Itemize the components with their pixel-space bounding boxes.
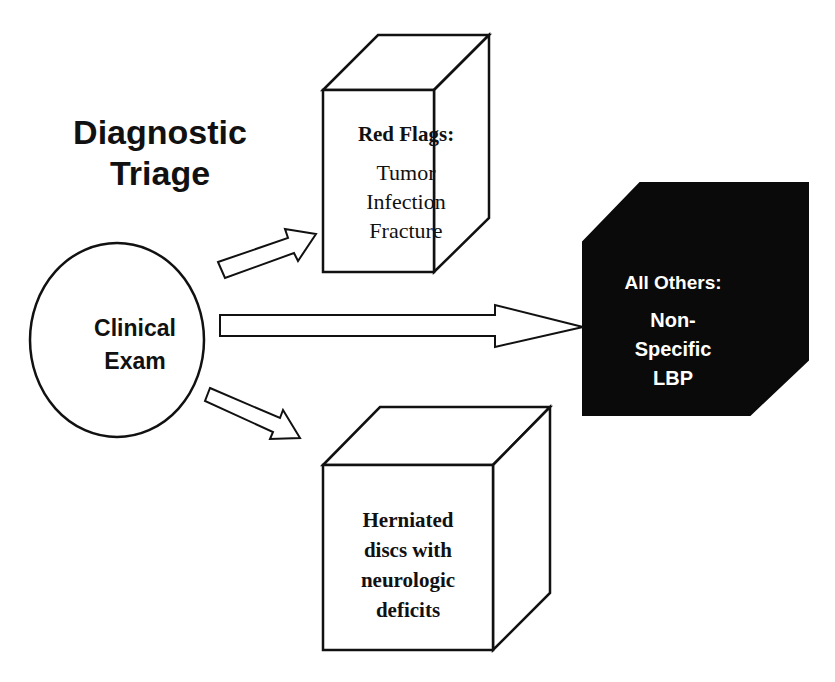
red-flags-heading: Red Flags: [323, 120, 489, 148]
diagram-canvas: Diagnostic Triage Clinical Exam Red Flag… [0, 0, 835, 682]
title-line-2: Triage [40, 153, 280, 194]
red-flag-item: Infection [323, 187, 489, 216]
diagram-title: Diagnostic Triage [40, 112, 280, 194]
red-flag-item: Fracture [323, 216, 489, 245]
all-others-line: LBP [583, 364, 763, 393]
arrow-right-icon [220, 305, 583, 347]
arrow-up-right-icon [218, 229, 316, 278]
herniated-line: Herniated [323, 505, 493, 535]
all-others-heading: All Others: [583, 270, 763, 296]
arrow-down-right-icon [205, 388, 300, 439]
all-others-line: Non- [583, 306, 763, 335]
clinical-exam-line-2: Exam [40, 345, 230, 378]
herniated-line: deficits [323, 595, 493, 625]
all-others-list: Non- Specific LBP [583, 306, 763, 393]
herniated-line: discs with [323, 535, 493, 565]
red-flag-item: Tumor [323, 158, 489, 187]
herniated-line: neurologic [323, 565, 493, 595]
clinical-exam-label: Clinical Exam [40, 312, 230, 378]
clinical-exam-line-1: Clinical [40, 312, 230, 345]
all-others-line: Specific [583, 335, 763, 364]
title-line-1: Diagnostic [40, 112, 280, 153]
herniated-label: Herniated discs with neurologic deficits [323, 505, 493, 625]
red-flags-list: Tumor Infection Fracture [323, 158, 489, 245]
